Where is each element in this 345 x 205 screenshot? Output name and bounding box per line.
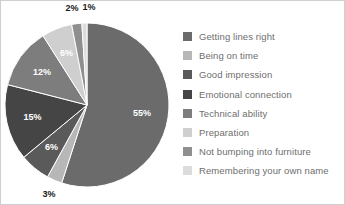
pie-slice-percentage-label: 6% — [45, 142, 58, 152]
legend-color-swatch — [183, 32, 192, 41]
legend-color-swatch — [183, 147, 192, 156]
legend-item-label: Preparation — [199, 127, 249, 138]
legend-item-label: Getting lines right — [199, 31, 275, 42]
pie-slice-percentage-label: 1% — [82, 2, 95, 12]
pie-svg: 55%3%6%15%12%6%2%1% — [0, 0, 180, 205]
legend-item-label: Technical ability — [199, 108, 267, 119]
legend-color-swatch — [183, 90, 192, 99]
legend-item-label: Remembering your own name — [199, 165, 329, 176]
legend-color-swatch — [183, 166, 192, 175]
legend-item-label: Not bumping into furniture — [199, 146, 311, 157]
legend-color-swatch — [183, 51, 192, 60]
legend: Getting lines rightBeing on timeGood imp… — [181, 27, 345, 181]
legend-item[interactable]: Getting lines right — [181, 27, 345, 46]
legend-item[interactable]: Being on time — [181, 46, 345, 65]
legend-color-swatch — [183, 70, 192, 79]
legend-item[interactable]: Preparation — [181, 123, 345, 142]
legend-item[interactable]: Not bumping into furniture — [181, 142, 345, 161]
pie-slice-percentage-label: 3% — [42, 189, 55, 199]
legend-item[interactable]: Technical ability — [181, 104, 345, 123]
legend-item-label: Emotional connection — [199, 89, 292, 100]
pie-slice-percentage-label: 12% — [33, 67, 51, 77]
legend-item[interactable]: Remembering your own name — [181, 161, 345, 180]
legend-item-label: Good impression — [199, 69, 272, 80]
pie-slice-percentage-label: 6% — [60, 48, 73, 58]
pie-slice-percentage-label: 15% — [24, 112, 42, 122]
legend-color-swatch — [183, 109, 192, 118]
pie-chart-figure: 55%3%6%15%12%6%2%1% Getting lines rightB… — [0, 0, 345, 205]
pie-slice-group — [5, 23, 169, 187]
pie-plot-area: 55%3%6%15%12%6%2%1% — [0, 0, 180, 205]
legend-item-label: Being on time — [199, 50, 258, 61]
legend-item[interactable]: Good impression — [181, 65, 345, 84]
legend-item[interactable]: Emotional connection — [181, 85, 345, 104]
legend-color-swatch — [183, 128, 192, 137]
pie-slice-percentage-label: 55% — [133, 108, 151, 118]
pie-slice-percentage-label: 2% — [65, 3, 78, 13]
